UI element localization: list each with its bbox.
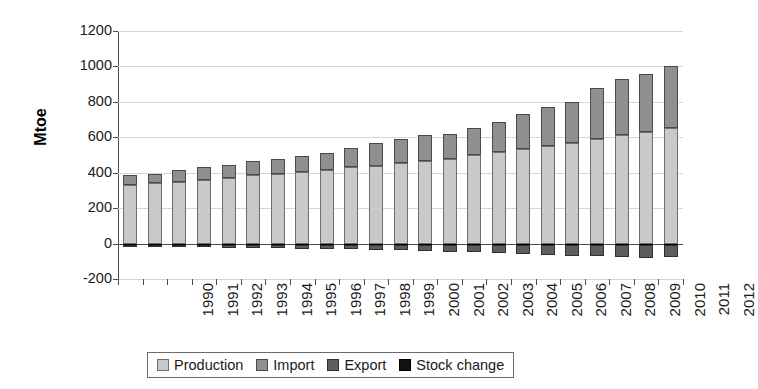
bar-segment-production: [320, 170, 334, 244]
bar-segment-production: [492, 152, 506, 243]
bar-group: [172, 31, 186, 279]
legend-swatch-icon: [256, 359, 268, 371]
y-axis-label: 200: [56, 199, 112, 215]
bar-segment-production: [516, 149, 530, 244]
x-axis-label: 2010: [691, 283, 709, 345]
bar-segment-import: [639, 74, 653, 132]
y-axis-label: 600: [56, 128, 112, 144]
bar-group: [222, 31, 236, 279]
bar-group: [197, 31, 211, 279]
bar-segment-export: [516, 245, 530, 255]
legend-label: Stock change: [416, 358, 504, 372]
legend-item: Stock change: [399, 358, 504, 372]
bar-segment-production: [222, 178, 236, 244]
bar-segment-production: [664, 128, 678, 243]
x-axis-label: 1991: [224, 283, 242, 345]
bar-segment-export: [492, 245, 506, 254]
bar-segment-export: [197, 245, 211, 248]
bar-group: [148, 31, 162, 279]
bar-segment-import: [664, 66, 678, 128]
bar-segment-production: [467, 155, 481, 244]
bar-segment-import: [344, 148, 358, 167]
y-axis-label: 0: [56, 235, 112, 251]
bar-group: [369, 31, 383, 279]
bar-segment-production: [123, 185, 137, 243]
bar-group: [590, 31, 604, 279]
y-axis-label: 1200: [56, 22, 112, 38]
bar-segment-import: [197, 167, 211, 179]
bar-segment-production: [246, 175, 260, 243]
bar-segment-export: [369, 245, 383, 250]
x-axis-label: 1995: [322, 283, 340, 345]
bar-segment-import: [565, 102, 579, 144]
bar-group: [320, 31, 334, 279]
x-axis-label: 1997: [371, 283, 389, 345]
bar-segment-import: [443, 134, 457, 159]
bar-segment-export: [590, 245, 604, 257]
bar-segment-production: [197, 180, 211, 244]
bar-segment-export: [664, 245, 678, 258]
bar-segment-import: [123, 175, 137, 185]
bar-segment-export: [565, 245, 579, 256]
bar-group: [443, 31, 457, 279]
bar-segment-export: [467, 245, 481, 253]
bar-segment-import: [222, 165, 236, 178]
bar-segment-import: [148, 174, 162, 184]
x-axis-label: 1994: [298, 283, 316, 345]
bar-segment-import: [418, 135, 432, 162]
x-axis-label: 2009: [666, 283, 684, 345]
x-axis-label: 2011: [715, 283, 733, 345]
bars-layer: [118, 31, 683, 279]
y-axis-label: 1000: [56, 57, 112, 73]
bar-segment-export: [148, 245, 162, 247]
bar-segment-export: [418, 245, 432, 251]
x-axis-label: 2000: [445, 283, 463, 345]
bar-group: [295, 31, 309, 279]
x-axis-label: 2007: [617, 283, 635, 345]
x-axis-label: 2003: [519, 283, 537, 345]
x-axis-label: 2006: [592, 283, 610, 345]
bar-group: [565, 31, 579, 279]
bar-segment-export: [295, 245, 309, 249]
bar-segment-export: [394, 245, 408, 251]
y-axis-label: 400: [56, 164, 112, 180]
bar-group: [639, 31, 653, 279]
x-axis-label: 2008: [641, 283, 659, 345]
bar-segment-export: [639, 245, 653, 258]
bar-group: [418, 31, 432, 279]
bar-group: [394, 31, 408, 279]
bar-segment-export: [246, 245, 260, 248]
bar-segment-export: [123, 245, 137, 247]
bar-segment-production: [369, 166, 383, 244]
bar-segment-production: [295, 172, 309, 244]
bar-group: [615, 31, 629, 279]
bar-segment-import: [590, 88, 604, 139]
x-axis-label: 1992: [248, 283, 266, 345]
bar-segment-production: [148, 183, 162, 243]
bar-segment-production: [271, 174, 285, 244]
x-axis-label: 2004: [543, 283, 561, 345]
bar-segment-export: [271, 245, 285, 249]
legend-item: Export: [327, 358, 386, 372]
bar-group: [123, 31, 137, 279]
bar-segment-production: [443, 159, 457, 244]
legend-swatch-icon: [399, 359, 411, 371]
y-axis-tick-labels: 120010008006004002000-200: [52, 31, 112, 279]
x-axis-label: 2005: [568, 283, 586, 345]
bar-segment-production: [172, 182, 186, 244]
x-axis-label: 2002: [494, 283, 512, 345]
bar-segment-import: [541, 107, 555, 146]
bar-group: [516, 31, 530, 279]
bar-segment-production: [565, 143, 579, 243]
x-axis-label: 2012: [740, 283, 758, 345]
legend-item: Import: [256, 358, 314, 372]
bar-segment-import: [615, 79, 629, 135]
bar-group: [467, 31, 481, 279]
bar-group: [541, 31, 555, 279]
bar-segment-production: [590, 139, 604, 244]
bar-segment-export: [344, 245, 358, 250]
bar-segment-import: [492, 122, 506, 152]
bar-segment-production: [394, 163, 408, 244]
legend-label: Export: [344, 358, 386, 372]
